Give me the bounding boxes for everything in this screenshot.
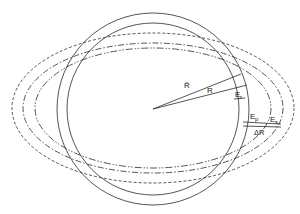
r-bar-line: [153, 74, 241, 109]
label-r: R: [207, 86, 213, 95]
svg-text:s: s: [275, 119, 278, 125]
ellipse-dash-dot: [23, 43, 283, 173]
ellipse-dashed: [12, 33, 294, 183]
ellipse-dash-dot-dot: [35, 48, 271, 168]
strain-diagram: R̄ R E r E p E s ΔR: [0, 0, 300, 214]
label-r-bar: R̄: [184, 81, 190, 90]
label-delta-r: ΔR: [254, 128, 265, 137]
svg-text:r: r: [240, 94, 242, 100]
label-e-p: E p: [250, 112, 259, 122]
r-line: [153, 85, 247, 109]
delta-r-line: [243, 126, 281, 127]
svg-text:p: p: [255, 116, 259, 122]
label-e-r: E r: [235, 90, 242, 100]
label-e-s: E s: [270, 115, 278, 125]
